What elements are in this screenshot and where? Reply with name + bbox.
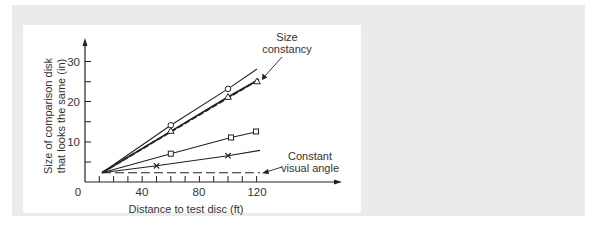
- line-circles: [102, 69, 257, 173]
- y-axis-title: Size of comparison disk that looks the s…: [42, 57, 67, 174]
- triangle-marker: [254, 78, 261, 84]
- size-constancy-pointer: [264, 57, 282, 77]
- svg-text:that looks the same (in): that looks the same (in): [55, 59, 67, 173]
- chart-svg: 30 20 10 0 40 80 120 Distance to test di…: [0, 0, 604, 226]
- y-ticks: [85, 62, 91, 163]
- y-tick-20: 20: [67, 96, 80, 108]
- line-squares: [102, 132, 258, 173]
- annotation-visual-angle-2: visual angle: [281, 162, 339, 174]
- circle-marker: [225, 86, 231, 92]
- svg-text:Size of comparison disk: Size of comparison disk: [42, 57, 54, 174]
- line-crosses: [102, 150, 260, 172]
- annotation-size-constancy-2: constancy: [262, 43, 312, 55]
- series-lines: [102, 69, 260, 173]
- x-axis-title: Distance to test disc (ft): [129, 203, 244, 215]
- y-tick-10: 10: [67, 136, 80, 148]
- square-marker: [254, 129, 259, 134]
- x-axis-arrow-icon: [334, 180, 342, 185]
- square-marker: [168, 151, 173, 156]
- y-axis-arrow-icon: [83, 38, 88, 46]
- square-marker: [229, 135, 234, 140]
- x-tick-120: 120: [247, 186, 266, 198]
- x-ticks: [99, 176, 256, 182]
- x-tick-80: 80: [193, 186, 206, 198]
- annotation-size-constancy-1: Size: [276, 31, 297, 43]
- annotation-visual-angle-1: Constant: [288, 150, 332, 162]
- origin-label: 0: [75, 186, 81, 198]
- line-size-constancy: [102, 79, 260, 173]
- markers: [168, 78, 261, 156]
- arrow-head-icon: [262, 169, 269, 174]
- x-tick-40: 40: [136, 186, 149, 198]
- y-tick-30: 30: [67, 56, 80, 68]
